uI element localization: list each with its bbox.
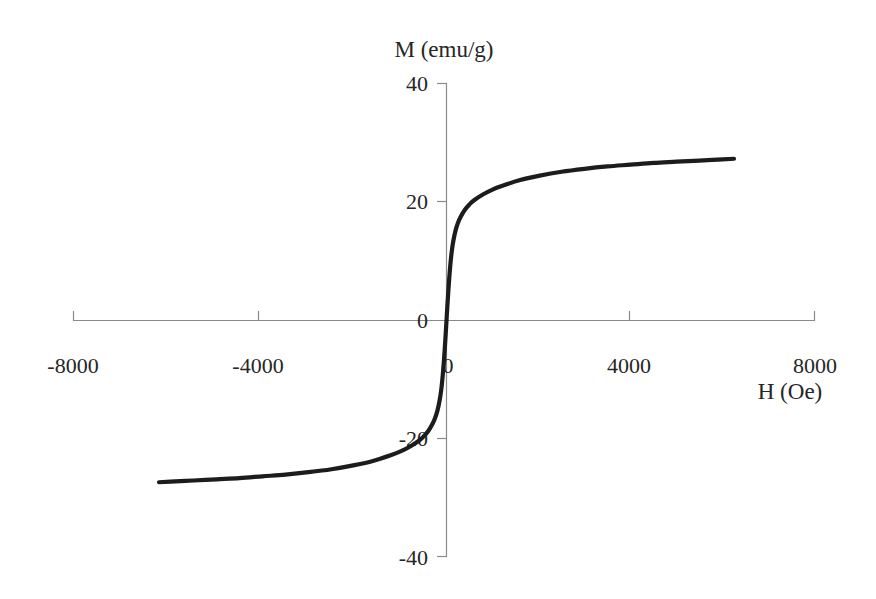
x-tick-label-minus-4000: -4000 [232,353,283,378]
y-tick-label-minus-40: -40 [399,545,428,570]
y-tick-label-20: 20 [406,189,428,214]
x-tick-label-minus-8000: -8000 [47,353,98,378]
x-tick-label-4000: 4000 [607,353,651,378]
y-tick-label-40: 40 [406,71,428,96]
x-axis-title: H (Oe) [758,379,823,404]
x-tick-label-8000: 8000 [793,353,837,378]
y-tick-label-0: 0 [417,308,428,333]
y-axis-title: M (emu/g) [394,37,493,62]
plot-canvas: M (emu/g) 40 20 0 -20 -40 -8000 -4000 0 … [0,0,876,599]
magnetization-hysteresis-figure: M (emu/g) 40 20 0 -20 -40 -8000 -4000 0 … [0,0,876,599]
